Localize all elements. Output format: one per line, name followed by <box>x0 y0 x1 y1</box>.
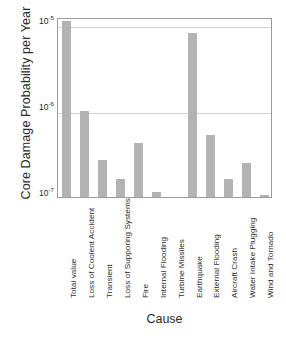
bar <box>98 160 107 197</box>
x-axis-title: Cause <box>57 312 272 326</box>
bar <box>206 135 215 197</box>
y-tick-label: 10-6 <box>20 102 54 112</box>
y-tick-label: 10-7 <box>20 188 54 198</box>
x-tick-label: Transient <box>105 264 114 298</box>
bars-group <box>58 19 271 197</box>
x-tick-label: Water Intake Plugging <box>248 218 257 298</box>
plot-area <box>57 18 272 198</box>
bar <box>188 33 197 197</box>
x-tick-label: Fire <box>141 284 150 298</box>
y-tick-label: 10-5 <box>20 16 54 26</box>
x-axis-tick-labels: Total valueLoss of Coolent AccidentTrans… <box>57 198 272 303</box>
bar <box>80 111 89 197</box>
bar <box>260 195 269 197</box>
bar <box>242 163 251 197</box>
bar <box>152 192 161 197</box>
bar <box>116 179 125 197</box>
bar <box>224 179 233 197</box>
y-axis-tick-labels: 10-5 10-6 10-7 <box>16 0 54 210</box>
bar-chart: Core Damage Probability per Year 10-5 10… <box>0 0 286 345</box>
x-tick-label: Wind and Tornado <box>266 232 275 298</box>
x-tick-label: Earthquake <box>195 256 204 298</box>
bar <box>62 21 71 197</box>
x-tick-label: Total value <box>69 259 78 298</box>
x-tick-label: External Flooding <box>212 234 221 298</box>
x-tick-label: Internal Flooding <box>159 237 168 298</box>
x-tick-label: Loss of Supporing Systems <box>123 198 132 298</box>
x-tick-label: Loss of Coolent Accident <box>87 208 96 298</box>
x-tick-label: Aircraft Crash <box>230 248 239 298</box>
bar <box>134 143 143 197</box>
x-tick-label: Turbine Missiles <box>177 239 186 298</box>
